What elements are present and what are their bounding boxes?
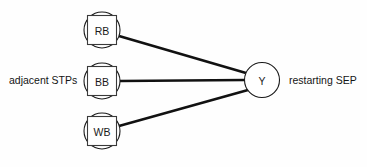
edge-wb-to-y xyxy=(119,90,248,126)
node-rb[interactable]: RB xyxy=(84,12,120,48)
node-bb-label: BB xyxy=(95,76,109,88)
diagram-canvas: RB BB WB Y adjacent STPs restarting SEP xyxy=(0,0,367,167)
label-restarting-sep: restarting SEP xyxy=(289,75,357,86)
node-wb[interactable]: WB xyxy=(84,113,120,149)
node-y-label: Y xyxy=(258,75,265,87)
label-adjacent-stps: adjacent STPs xyxy=(9,75,77,86)
node-bb[interactable]: BB xyxy=(84,63,120,99)
node-rb-label: RB xyxy=(95,25,110,37)
node-wb-label: WB xyxy=(94,126,111,138)
edge-group xyxy=(119,36,248,126)
edge-rb-to-y xyxy=(119,36,246,73)
node-y[interactable]: Y xyxy=(245,63,280,98)
edge-bb-to-y xyxy=(120,80,245,81)
